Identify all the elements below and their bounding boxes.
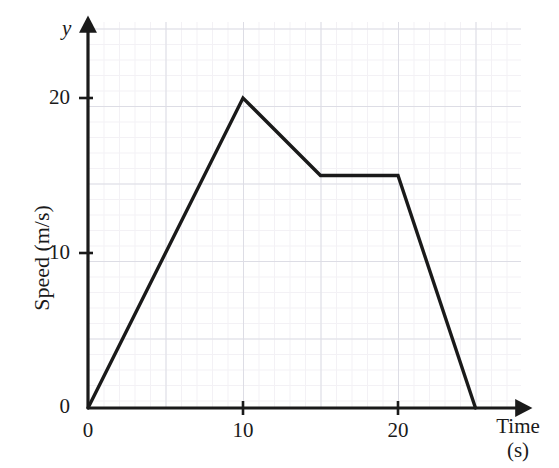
y-tick-label-20: 20 [28, 87, 70, 108]
x-axis-title: Time (s) [478, 414, 558, 462]
plot-canvas [0, 0, 559, 468]
speed-time-graph-figure: 20 10 0 0 10 20 Speed (m/s) y Time (s) [0, 0, 559, 468]
x-tick-label-10: 10 [225, 420, 261, 441]
speed-time-data-line [88, 98, 476, 408]
y-axis-variable-label: y [62, 16, 71, 41]
y-tick-label-0: 0 [28, 396, 70, 417]
x-tick-label-0: 0 [74, 420, 102, 441]
x-axis-unit-text: (s) [478, 438, 558, 462]
x-tick-label-20: 20 [380, 420, 416, 441]
x-axis-title-text: Time [496, 414, 540, 438]
y-axis-title: Speed (m/s) [29, 163, 55, 353]
